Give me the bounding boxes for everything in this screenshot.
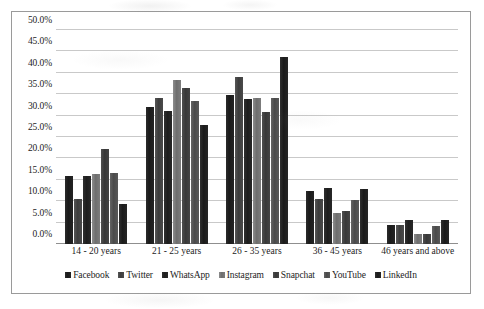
bar-group — [65, 30, 127, 244]
legend-item-youtube[interactable]: YouTube — [324, 270, 366, 280]
bar-whatsapp-0 — [83, 176, 91, 244]
bar-snapchat-4 — [423, 234, 431, 244]
bar-whatsapp-3 — [324, 188, 332, 244]
bar-youtube-4 — [432, 226, 440, 244]
bar-twitter-1 — [155, 98, 163, 244]
bar-snapchat-2 — [262, 112, 270, 244]
chart-legend: FacebookTwitterWhatsAppInstagramSnapchat… — [12, 270, 470, 280]
y-axis-tick-label: 50.0% — [28, 15, 52, 25]
x-axis-category-labels: 14 - 20 years21 - 25 years26 - 35 years3… — [56, 246, 458, 257]
y-axis-tick-label: 20.0% — [28, 143, 52, 153]
bar-instagram-1 — [173, 80, 181, 244]
y-axis-tick-label: 0.0% — [33, 229, 52, 239]
bar-instagram-0 — [92, 174, 100, 244]
bar-whatsapp-2 — [244, 99, 252, 244]
y-axis-tick-label: 35.0% — [28, 79, 52, 89]
legend-label: Snapchat — [281, 270, 315, 280]
bar-twitter-0 — [74, 199, 82, 244]
y-axis-tick-label: 40.0% — [28, 58, 52, 68]
x-axis-category-label: 26 - 35 years — [219, 246, 295, 257]
legend-swatch-icon — [375, 272, 381, 278]
y-axis-tick-label: 45.0% — [28, 36, 52, 46]
legend-label: WhatsApp — [170, 270, 210, 280]
y-axis-tick-label: 5.0% — [33, 208, 52, 218]
y-axis-tick-label: 10.0% — [28, 186, 52, 196]
legend-label: Facebook — [73, 270, 109, 280]
legend-item-instagram[interactable]: Instagram — [219, 270, 264, 280]
bar-linkedin-4 — [441, 220, 449, 244]
y-axis-tick-label: 30.0% — [28, 101, 52, 111]
legend-item-snapchat[interactable]: Snapchat — [273, 270, 315, 280]
bar-facebook-1 — [146, 107, 154, 244]
legend-swatch-icon — [273, 272, 279, 278]
bar-youtube-1 — [191, 101, 199, 244]
bar-snapchat-0 — [101, 149, 109, 244]
bar-snapchat-1 — [182, 88, 190, 244]
legend-item-whatsapp[interactable]: WhatsApp — [162, 270, 210, 280]
legend-label: Instagram — [227, 270, 264, 280]
bar-facebook-4 — [387, 225, 395, 244]
bar-whatsapp-1 — [164, 111, 172, 244]
legend-label: YouTube — [332, 270, 366, 280]
bar-group — [146, 30, 208, 244]
legend-swatch-icon — [219, 272, 225, 278]
legend-item-twitter[interactable]: Twitter — [118, 270, 153, 280]
bar-snapchat-3 — [342, 211, 350, 244]
x-axis-category-label: 36 - 45 years — [299, 246, 375, 257]
bar-linkedin-2 — [280, 57, 288, 244]
bar-youtube-0 — [110, 173, 118, 244]
bar-youtube-3 — [351, 200, 359, 244]
bar-twitter-3 — [315, 199, 323, 244]
bar-linkedin-0 — [119, 204, 127, 244]
bar-group — [226, 30, 288, 244]
y-axis-tick-label: 25.0% — [28, 122, 52, 132]
x-axis-category-label: 46 years and above — [380, 246, 456, 257]
bar-facebook-0 — [65, 176, 73, 244]
y-axis-tick-label: 15.0% — [28, 165, 52, 175]
legend-item-facebook[interactable]: Facebook — [65, 270, 109, 280]
legend-label: Twitter — [126, 270, 153, 280]
plot-area: 0.0%5.0%10.0%15.0%20.0%25.0%30.0%35.0%40… — [56, 30, 458, 244]
legend-swatch-icon — [118, 272, 124, 278]
bar-twitter-2 — [235, 77, 243, 244]
bar-twitter-4 — [396, 225, 404, 244]
bar-group — [306, 30, 368, 244]
bar-instagram-4 — [414, 234, 422, 244]
legend-swatch-icon — [324, 272, 330, 278]
legend-item-linkedin[interactable]: LinkedIn — [375, 270, 417, 280]
bar-instagram-2 — [253, 98, 261, 244]
bar-instagram-3 — [333, 213, 341, 244]
legend-swatch-icon — [65, 272, 71, 278]
chart-frame: 0.0%5.0%10.0%15.0%20.0%25.0%30.0%35.0%40… — [11, 11, 471, 294]
bar-linkedin-1 — [200, 125, 208, 244]
legend-swatch-icon — [162, 272, 168, 278]
bar-facebook-3 — [306, 191, 314, 244]
bar-group — [387, 30, 449, 244]
bar-whatsapp-4 — [405, 220, 413, 244]
x-axis-category-label: 14 - 20 years — [58, 246, 134, 257]
bar-youtube-2 — [271, 98, 279, 244]
bar-facebook-2 — [226, 95, 234, 244]
bar-linkedin-3 — [360, 189, 368, 244]
bar-groups — [56, 30, 458, 244]
legend-label: LinkedIn — [383, 270, 417, 280]
x-axis-category-label: 21 - 25 years — [139, 246, 215, 257]
